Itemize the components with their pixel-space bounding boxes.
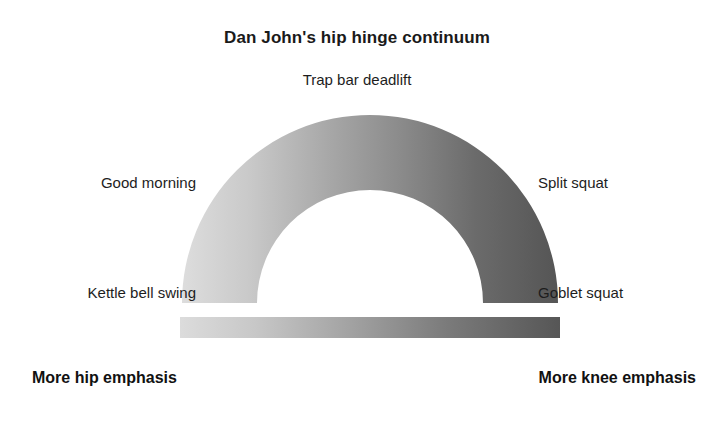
node-label-kettle-bell-swing: Kettle bell swing	[88, 285, 196, 300]
node-label-good-morning: Good morning	[101, 175, 196, 190]
axis-label-more-knee-emphasis: More knee emphasis	[539, 370, 696, 386]
node-label-trap-bar-deadlift: Trap bar deadlift	[0, 72, 714, 87]
axis-label-more-hip-emphasis: More hip emphasis	[32, 370, 177, 386]
node-label-split-squat: Split squat	[538, 175, 608, 190]
continuum-bar	[180, 317, 560, 338]
arch-ring-shape	[182, 115, 558, 303]
hip-hinge-arch-graphic	[0, 0, 714, 431]
diagram-canvas: Dan John's hip hinge continuum	[0, 0, 714, 431]
node-label-goblet-squat: Goblet squat	[538, 285, 623, 300]
